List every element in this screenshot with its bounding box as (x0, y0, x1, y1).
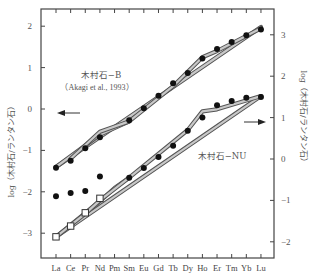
element-label-ce: Ce (66, 263, 76, 273)
data-points (53, 27, 264, 241)
right-axis: 3210−1−2 (270, 30, 291, 247)
data-point-circle (199, 115, 205, 121)
right-arrow-icon (244, 119, 266, 125)
right-axis-title: log（木村石/ランタン石） (299, 70, 309, 165)
data-point-circle (126, 175, 132, 181)
data-point-square (97, 195, 103, 201)
right-tick-label: −2 (281, 237, 291, 247)
data-point-circle (214, 46, 220, 52)
model-curves (56, 27, 261, 237)
element-label-gd: Gd (153, 263, 164, 273)
ree-pattern-chart: 210−1−2−3 3210−1−2 LaCePrNdPmSmEuGdTbDyH… (0, 0, 312, 277)
data-point-circle (68, 158, 74, 164)
data-point-circle (53, 165, 59, 171)
x-axis: LaCePrNdPmSmEuGdTbDyHoErTmYbLu (52, 9, 267, 273)
element-label-dy: Dy (183, 263, 194, 273)
data-point-circle (155, 93, 161, 99)
element-label-nd: Nd (95, 263, 106, 273)
data-point-circle (97, 134, 103, 140)
data-point-circle (243, 95, 249, 101)
element-label-ho: Ho (197, 263, 207, 273)
left-tick-label: −2 (22, 187, 32, 197)
element-label-la: La (52, 263, 61, 273)
data-point-square (82, 210, 88, 216)
data-point-circle (214, 102, 220, 108)
right-tick-label: 0 (281, 154, 286, 164)
data-point-circle (97, 173, 103, 179)
element-label-tm: Tm (226, 263, 238, 273)
data-point-circle (141, 105, 147, 111)
data-point-circle (82, 188, 88, 194)
right-tick-label: −1 (281, 195, 291, 205)
lower-series-label: 木村石−NU (198, 151, 247, 161)
data-point-square (67, 223, 73, 229)
right-tick-label: 1 (281, 113, 286, 123)
element-label-pm: Pm (109, 263, 121, 273)
data-point-circle (155, 154, 161, 160)
left-tick-label: 1 (28, 63, 33, 73)
left-arrow-icon (57, 110, 80, 116)
data-point-circle (68, 190, 74, 196)
element-label-er: Er (213, 263, 221, 273)
element-label-pr: Pr (81, 263, 89, 273)
data-point-circle (258, 27, 264, 33)
data-point-circle (170, 80, 176, 86)
data-point-circle (185, 70, 191, 76)
data-point-circle (170, 143, 176, 149)
element-label-lu: Lu (256, 263, 266, 273)
data-point-circle (258, 94, 264, 100)
left-tick-label: −3 (22, 228, 32, 238)
element-label-yb: Yb (241, 263, 251, 273)
data-point-circle (229, 39, 235, 45)
left-axis: 210−1−2−3 (22, 21, 45, 238)
data-point-square (53, 234, 59, 240)
upper-series-label: 木村石−B (81, 70, 121, 80)
element-label-sm: Sm (124, 263, 136, 273)
data-point-circle (141, 165, 147, 171)
data-point-circle (82, 145, 88, 151)
data-point-circle (185, 128, 191, 134)
left-tick-label: 0 (28, 104, 33, 114)
left-tick-label: 2 (28, 21, 33, 31)
left-axis-title: log（木村石/ランタン石） (6, 102, 16, 197)
data-point-circle (199, 55, 205, 61)
right-tick-label: 3 (281, 30, 286, 40)
element-label-eu: Eu (139, 263, 149, 273)
data-point-circle (243, 32, 249, 38)
left-tick-label: −1 (22, 145, 32, 155)
right-tick-label: 2 (281, 71, 286, 81)
data-point-circle (229, 98, 235, 104)
upper-series-reference: （Akagi et al., 1993） (60, 83, 133, 92)
data-point-circle (53, 193, 59, 199)
data-point-circle (126, 117, 132, 123)
element-label-tb: Tb (168, 263, 177, 273)
